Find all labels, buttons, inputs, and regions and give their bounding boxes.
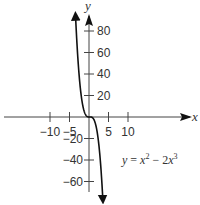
y-ticks: 80604020−20−40−60	[63, 24, 111, 189]
y-tick-label: −40	[63, 153, 84, 167]
y-tick-label: −20	[63, 132, 84, 146]
chart: x y −10−5510 80604020−20−40−60 y = x2 − …	[0, 0, 200, 205]
y-tick-label: 60	[97, 46, 111, 60]
y-tick-label: −60	[63, 175, 84, 189]
x-tick-label: 5	[105, 125, 112, 139]
y-tick-label: 40	[97, 67, 111, 81]
x-axis-label: x	[191, 109, 198, 124]
x-tick-label: −10	[40, 125, 61, 139]
x-tick-label: 10	[121, 125, 135, 139]
equation-label: y = x2 − 2x3	[121, 152, 178, 167]
y-axis-label: y	[83, 0, 91, 13]
y-tick-label: 20	[97, 89, 111, 103]
y-tick-label: 80	[97, 24, 111, 38]
